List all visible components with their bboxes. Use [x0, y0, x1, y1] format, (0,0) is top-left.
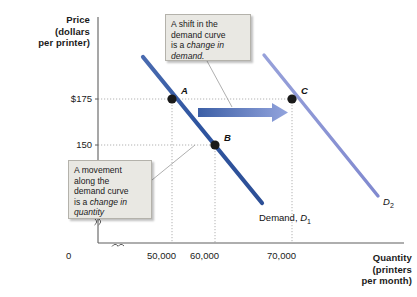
callout-shift-line-4: demand. — [171, 51, 245, 61]
y-axis-title-line-1: Price — [18, 14, 90, 26]
demand-curve-d1 — [143, 57, 262, 203]
callout-shift-line-2: demand curve — [171, 30, 245, 41]
leader-line-shift — [207, 61, 232, 107]
callout-movement-line-4-prefix: is a — [74, 197, 90, 207]
callout-shift-line-1: A shift in the — [171, 19, 245, 30]
curve-label-d2-symbol: D — [383, 196, 390, 207]
curve-label-d2: D2 — [383, 196, 394, 209]
shift-arrow — [198, 103, 288, 122]
y-axis-title-line-3: per printer) — [18, 37, 90, 49]
curve-label-d1-text: Demand, — [259, 212, 300, 223]
leader-line-movement — [152, 145, 195, 180]
x-axis-title-line-1: Quantity — [330, 252, 412, 264]
x-axis-title: Quantity (printers per month) — [330, 252, 412, 287]
point-label-b: B — [224, 132, 231, 143]
x-tick-label-70000: 70,000 — [267, 250, 296, 261]
y-axis-title: Price (dollars per printer) — [18, 14, 90, 49]
y-axis-title-line-2: (dollars — [18, 26, 90, 38]
axis-break-marks — [95, 219, 125, 247]
callout-shift-line-4-emphasis: demand. — [171, 51, 204, 61]
x-axis-break-icon — [112, 244, 124, 246]
callout-movement-line-1: A movement — [74, 165, 146, 176]
callout-shift-line-3-prefix: is a — [171, 40, 187, 50]
point-marker-a — [167, 94, 176, 103]
point-label-a: A — [181, 85, 188, 96]
point-marker-c — [287, 94, 296, 103]
point-label-c: C — [301, 85, 308, 96]
x-axis-title-line-3: per month) — [330, 275, 412, 287]
callout-movement-line-6-emphasis: demanded. — [74, 218, 117, 219]
leader-lines — [152, 61, 232, 180]
point-marker-b — [210, 140, 219, 149]
curve-label-d1: Demand, D1 — [259, 212, 311, 225]
curve-label-d2-subscript: 2 — [390, 202, 394, 209]
demand-curve-d2 — [264, 55, 378, 196]
origin-label: 0 — [66, 250, 71, 261]
x-axis-title-line-2: (printers — [330, 264, 412, 276]
callout-movement-line-4: is a change in — [74, 197, 146, 208]
callout-shift-line-3: is a change in — [171, 40, 245, 51]
callout-movement-line-3: demand curve — [74, 186, 146, 197]
x-tick-label-60000: 60,000 — [190, 250, 219, 261]
y-tick-label-175: $175 — [38, 93, 92, 104]
callout-shift-line-3-emphasis: change in — [187, 40, 224, 50]
x-tick-label-50000: 50,000 — [147, 250, 176, 261]
y-tick-label-150: 150 — [38, 139, 92, 150]
callout-movement-line-5-emphasis: quantity — [74, 207, 104, 217]
callout-movement-line-2: along the — [74, 176, 146, 187]
callout-movement-along-curve: A movement along the demand curve is a c… — [68, 160, 152, 219]
callout-movement-line-4-emphasis: change in — [90, 197, 127, 207]
curve-label-d1-subscript: 1 — [307, 218, 311, 225]
point-markers — [167, 94, 296, 149]
callout-movement-line-5: quantity — [74, 207, 146, 218]
callout-movement-line-6: demanded. — [74, 218, 146, 219]
callout-shift-in-demand: A shift in the demand curve is a change … — [165, 14, 251, 61]
diagram-canvas: Price (dollars per printer) Quantity (pr… — [0, 0, 417, 297]
